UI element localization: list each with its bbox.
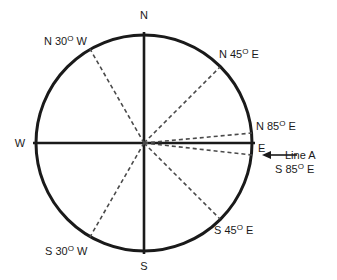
- bearing-label-n85e-prefix: N 85: [256, 120, 279, 132]
- cardinal-label-west: W: [15, 137, 26, 149]
- bearing-label-n45e-suffix: E: [248, 48, 258, 60]
- bearing-label-n45e: N 45O E: [219, 47, 259, 60]
- annotation-bearing-suffix: E: [304, 163, 314, 175]
- annotation-bearing-label: S 85O E: [275, 162, 314, 175]
- bearing-label-s30w-prefix: S 30: [45, 245, 68, 257]
- bearing-label-s45e-prefix: S 45: [214, 224, 237, 236]
- annotation-bearing-prefix: S 85: [275, 163, 298, 175]
- compass-diagram: N S W E N 30O W N 45O E N 85O E S 45O E …: [0, 0, 337, 280]
- annotation-line-label: Line A: [285, 149, 316, 161]
- bearing-label-n30w-suffix: W: [73, 35, 87, 47]
- cardinal-label-east: E: [258, 142, 265, 154]
- bearing-label-s30w-suffix: W: [74, 245, 88, 257]
- bearing-line-n30w: [90, 49, 144, 143]
- bearing-label-s30w: S 30O W: [45, 244, 88, 257]
- bearing-label-n85e: N 85O E: [256, 119, 296, 132]
- bearing-line-s85e: [144, 143, 252, 155]
- bearing-label-s45e: S 45O E: [214, 223, 253, 236]
- bearing-line-s30w: [90, 143, 144, 237]
- bearing-label-s45e-suffix: E: [243, 224, 253, 236]
- bearing-label-n45e-prefix: N 45: [219, 48, 242, 60]
- compass-svg-canvas: N S W E N 30O W N 45O E N 85O E S 45O E …: [0, 0, 337, 280]
- bearing-label-n85e-suffix: E: [285, 120, 295, 132]
- bearing-line-n85e: [144, 133, 252, 143]
- cardinal-label-north: N: [140, 9, 148, 21]
- bearing-label-n30w-prefix: N 30: [44, 35, 67, 47]
- cardinal-label-south: S: [140, 260, 147, 272]
- bearing-line-n45e: [144, 67, 220, 143]
- bearing-label-n30w: N 30O W: [44, 34, 88, 47]
- bearing-line-s45e: [144, 143, 220, 219]
